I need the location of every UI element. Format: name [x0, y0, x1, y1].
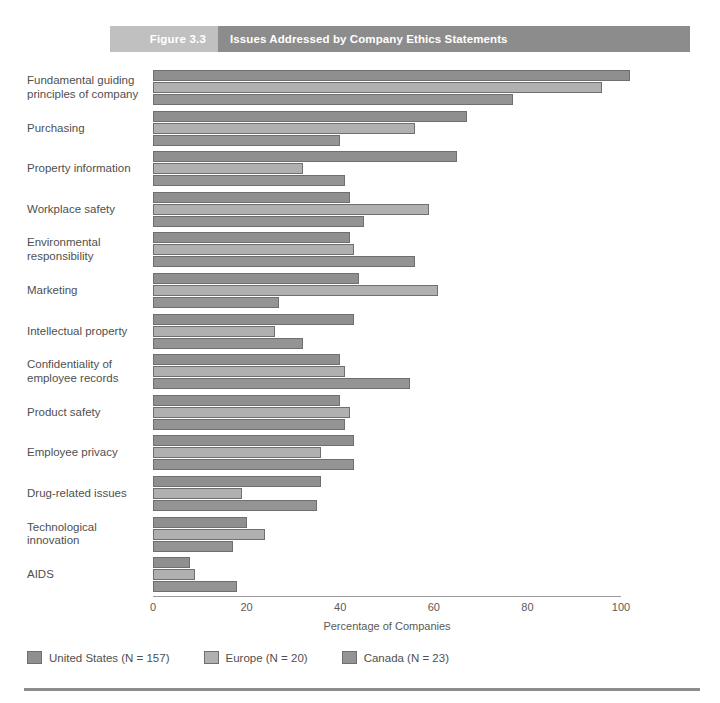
bar-us[interactable] [153, 232, 350, 243]
category-label: Purchasing [27, 122, 147, 136]
bar-canada[interactable] [153, 338, 303, 349]
x-axis-line [153, 596, 621, 597]
bar-canada[interactable] [153, 419, 345, 430]
bar-us[interactable] [153, 111, 467, 122]
bar-us[interactable] [153, 314, 354, 325]
bar-canada[interactable] [153, 94, 513, 105]
legend-label: United States (N = 157) [49, 652, 170, 664]
figure-header-bar: Figure 3.3 Issues Addressed by Company E… [110, 26, 690, 52]
category-label: Environmental responsibility [27, 236, 147, 263]
bar-group [153, 273, 438, 309]
bar-us[interactable] [153, 435, 354, 446]
bar-europe[interactable] [153, 163, 303, 174]
category-label: Intellectual property [27, 325, 147, 339]
figure-number-label: Figure 3.3 [110, 26, 218, 52]
bar-canada[interactable] [153, 297, 279, 308]
bar-us[interactable] [153, 151, 457, 162]
bar-europe[interactable] [153, 285, 438, 296]
bar-canada[interactable] [153, 541, 233, 552]
category-label: Marketing [27, 284, 147, 298]
bar-europe[interactable] [153, 82, 602, 93]
x-tick-60: 60 [428, 601, 440, 613]
legend-item-canada[interactable]: Canada (N = 23) [342, 651, 449, 664]
bar-group [153, 111, 467, 147]
bar-europe[interactable] [153, 326, 275, 337]
x-axis-title: Percentage of Companies [153, 620, 621, 632]
category-label: Confidentiality of employee records [27, 358, 147, 385]
bar-group [153, 314, 354, 350]
bar-group [153, 435, 354, 471]
legend-item-europe[interactable]: Europe (N = 20) [204, 651, 308, 664]
category-label: Drug-related issues [27, 487, 147, 501]
category-label: Fundamental guiding principles of compan… [27, 74, 147, 101]
bar-europe[interactable] [153, 569, 195, 580]
category-label: Property information [27, 162, 147, 176]
bar-us[interactable] [153, 273, 359, 284]
legend-label: Europe (N = 20) [226, 652, 308, 664]
x-tick-100: 100 [612, 601, 630, 613]
bar-canada[interactable] [153, 175, 345, 186]
bar-us[interactable] [153, 192, 350, 203]
bar-europe[interactable] [153, 204, 429, 215]
legend-label: Canada (N = 23) [364, 652, 449, 664]
bar-europe[interactable] [153, 366, 345, 377]
bar-europe[interactable] [153, 123, 415, 134]
x-tick-40: 40 [334, 601, 346, 613]
bar-us[interactable] [153, 395, 340, 406]
bar-canada[interactable] [153, 216, 364, 227]
chart-legend: United States (N = 157)Europe (N = 20)Ca… [27, 651, 483, 664]
bar-europe[interactable] [153, 244, 354, 255]
bar-group [153, 395, 350, 431]
bar-group [153, 232, 415, 268]
bar-canada[interactable] [153, 256, 415, 267]
legend-item-us[interactable]: United States (N = 157) [27, 651, 170, 664]
bar-group [153, 517, 265, 553]
category-label: Workplace safety [27, 203, 147, 217]
category-label: Technological innovation [27, 521, 147, 548]
bar-canada[interactable] [153, 378, 410, 389]
bar-group [153, 557, 237, 593]
bar-europe[interactable] [153, 407, 350, 418]
bar-us[interactable] [153, 517, 247, 528]
bar-group [153, 354, 410, 390]
bar-canada[interactable] [153, 500, 317, 511]
bar-us[interactable] [153, 476, 321, 487]
legend-swatch-icon [204, 651, 219, 664]
bar-europe[interactable] [153, 529, 265, 540]
x-tick-20: 20 [240, 601, 252, 613]
bottom-divider [24, 688, 700, 691]
bar-canada[interactable] [153, 459, 354, 470]
bar-canada[interactable] [153, 135, 340, 146]
category-label: Product safety [27, 406, 147, 420]
category-label: Employee privacy [27, 446, 147, 460]
chart-plot-area: Fundamental guiding principles of compan… [0, 68, 720, 596]
bar-europe[interactable] [153, 447, 321, 458]
category-label: AIDS [27, 568, 147, 582]
bar-group [153, 151, 457, 187]
bar-group [153, 476, 321, 512]
legend-swatch-icon [342, 651, 357, 664]
bar-us[interactable] [153, 557, 190, 568]
figure-title: Issues Addressed by Company Ethics State… [218, 26, 690, 52]
bar-us[interactable] [153, 354, 340, 365]
legend-swatch-icon [27, 651, 42, 664]
bar-group [153, 70, 630, 106]
bar-canada[interactable] [153, 581, 237, 592]
bar-group [153, 192, 429, 228]
x-tick-0: 0 [150, 601, 156, 613]
bar-us[interactable] [153, 70, 630, 81]
bar-europe[interactable] [153, 488, 242, 499]
x-tick-80: 80 [521, 601, 533, 613]
